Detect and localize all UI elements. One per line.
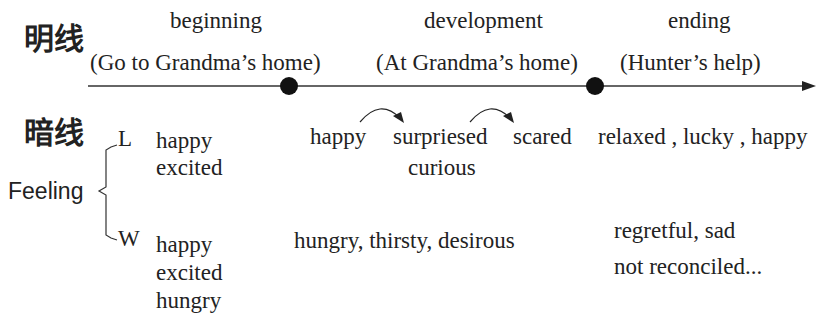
- w-ending-2: not reconciled...: [614, 254, 762, 280]
- w-beginning-3: hungry: [156, 288, 221, 314]
- stage-ending-desc: (Hunter’s help): [620, 50, 761, 76]
- branch-w-label: W: [118, 226, 140, 252]
- l-development-2: surpriesed: [393, 124, 488, 150]
- branch-l-label: L: [118, 126, 132, 152]
- stage-divider-dot: [586, 77, 604, 95]
- w-beginning-1: happy: [156, 232, 212, 258]
- stage-beginning: beginning: [170, 8, 262, 34]
- stage-development-desc: (At Grandma’s home): [376, 50, 578, 76]
- l-beginning-1: happy: [156, 128, 212, 154]
- curve-arrow: [470, 109, 510, 122]
- main-line-label: 明线: [24, 14, 84, 58]
- w-development: hungry, thirsty, desirous: [294, 228, 515, 254]
- w-ending-1: regretful, sad: [614, 218, 735, 244]
- stage-beginning-desc: (Go to Grandma’s home): [90, 50, 321, 76]
- l-beginning-2: excited: [156, 155, 222, 181]
- stage-divider-dot: [280, 77, 298, 95]
- l-development-3: scared: [513, 124, 572, 150]
- feeling-label: Feeling: [8, 178, 83, 205]
- stage-development: development: [424, 8, 543, 34]
- l-development-2-sub: curious: [408, 155, 476, 181]
- feeling-brace: [99, 145, 117, 240]
- l-ending: relaxed , lucky , happy: [598, 124, 807, 150]
- w-beginning-2: excited: [156, 260, 222, 286]
- l-development-1: happy: [310, 124, 366, 150]
- arrow-head-icon: [802, 81, 816, 91]
- hidden-line-label: 暗线: [24, 108, 84, 152]
- stage-ending: ending: [668, 8, 731, 34]
- curve-arrow: [360, 109, 400, 122]
